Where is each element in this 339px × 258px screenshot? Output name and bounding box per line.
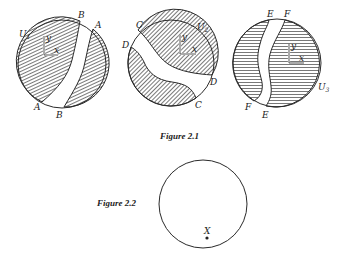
u3-axis-x-label: x bbox=[299, 53, 304, 63]
figure-2-1-caption: Figure 2.1 bbox=[159, 131, 199, 141]
u2-upper-region bbox=[138, 9, 218, 75]
point-x-label: X bbox=[203, 226, 211, 236]
figure-2-2-caption: Figure 2.2 bbox=[96, 198, 137, 208]
u2-label-d-left: D bbox=[121, 40, 129, 50]
u1-label-a-top: A bbox=[94, 20, 102, 30]
u3-label-e-bottom: E bbox=[261, 110, 269, 120]
u1-axis-y-label: y bbox=[45, 33, 52, 43]
u3-set-label: U3 bbox=[318, 82, 330, 93]
u3-left-region bbox=[233, 20, 269, 101]
panel-u3: y x U3 E F F E bbox=[233, 9, 330, 120]
u3-label-f-bottom: F bbox=[244, 102, 252, 112]
point-x-dot bbox=[205, 236, 208, 239]
u3-label-e-top: E bbox=[266, 9, 274, 19]
u1-label-b-top: B bbox=[77, 10, 85, 20]
u2-label-c-bottom: C bbox=[195, 100, 202, 110]
u2-label-c-top: C bbox=[136, 20, 143, 30]
u2-label-d-right: D bbox=[209, 77, 217, 87]
u2-axis-y-label: y bbox=[181, 32, 188, 42]
u1-label-a-bottom: A bbox=[33, 102, 41, 112]
figure-2-2: Figure 2.2 X bbox=[96, 160, 247, 248]
figure-canvas: y x U1 B A A B y x U2 C D D C y x U3 bbox=[0, 0, 339, 258]
panel-u2: y x U2 C D D C bbox=[121, 9, 218, 110]
fig22-circle-outline bbox=[159, 160, 247, 248]
u2-axis-x-label: x bbox=[192, 44, 197, 54]
panel-u1: y x U1 B A A B bbox=[16, 10, 109, 120]
u3-axis-y-label: y bbox=[290, 41, 297, 51]
u1-label-b-bottom: B bbox=[55, 110, 63, 120]
u1-axis-x-label: x bbox=[54, 45, 59, 55]
u3-label-f-top: F bbox=[283, 9, 291, 19]
